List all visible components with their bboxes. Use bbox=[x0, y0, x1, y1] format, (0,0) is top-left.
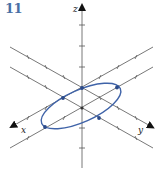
point bbox=[61, 96, 65, 100]
point bbox=[80, 106, 83, 109]
z-axis-label: z bbox=[73, 4, 78, 14]
point bbox=[80, 86, 84, 90]
point bbox=[97, 116, 101, 120]
point bbox=[43, 125, 47, 129]
y-axis-label: y bbox=[138, 125, 143, 135]
point bbox=[115, 86, 119, 90]
diagram: 11 bbox=[0, 0, 164, 182]
x-axis-label: x bbox=[21, 125, 26, 135]
3d-axes-diagram bbox=[0, 0, 164, 182]
